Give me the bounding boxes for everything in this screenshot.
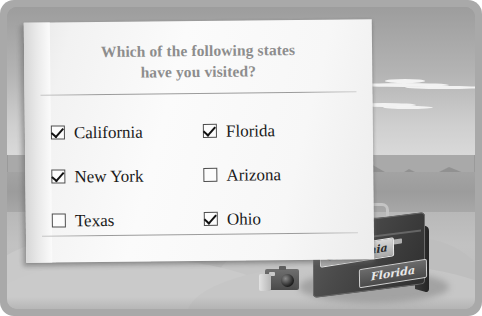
checkbox-arizona[interactable] xyxy=(203,168,217,182)
checkbox-new-york[interactable] xyxy=(51,169,65,183)
sticker-label: Florida xyxy=(371,264,415,284)
survey-card: Which of the following states have you v… xyxy=(24,19,374,263)
camera-icon xyxy=(259,265,301,291)
image-frame-inner: California Florida Which of the followin… xyxy=(7,7,475,309)
checkbox-group: California Florida New York Arizona xyxy=(51,107,352,242)
option-ohio[interactable]: Ohio xyxy=(204,209,352,228)
option-california[interactable]: California xyxy=(51,122,203,141)
checkbox-california[interactable] xyxy=(51,125,65,139)
option-label: Florida xyxy=(226,122,275,140)
option-new-york[interactable]: New York xyxy=(51,166,203,185)
option-label: California xyxy=(74,123,143,141)
option-label: Arizona xyxy=(226,166,281,184)
cloud-icon xyxy=(385,79,425,83)
page-title: Which of the following states have you v… xyxy=(24,39,372,84)
option-label: Texas xyxy=(75,211,115,228)
option-label: New York xyxy=(74,167,143,185)
option-florida[interactable]: Florida xyxy=(203,121,351,140)
image-frame: California Florida Which of the followin… xyxy=(0,0,482,316)
camera-lens xyxy=(281,274,294,287)
checkbox-florida[interactable] xyxy=(203,124,217,138)
option-arizona[interactable]: Arizona xyxy=(203,165,351,184)
page-title-line-2: have you visited? xyxy=(24,60,372,85)
checkbox-ohio[interactable] xyxy=(204,212,218,226)
option-texas[interactable]: Texas xyxy=(52,210,204,229)
checkbox-texas[interactable] xyxy=(52,213,66,227)
cloud-icon xyxy=(383,106,433,109)
cloud-icon xyxy=(405,86,475,89)
camera-shutter-button xyxy=(279,266,286,270)
divider-top xyxy=(41,91,357,95)
scene-image: California Florida Which of the followin… xyxy=(0,0,482,316)
film-roll-icon xyxy=(259,274,271,291)
option-label: Ohio xyxy=(227,210,261,227)
